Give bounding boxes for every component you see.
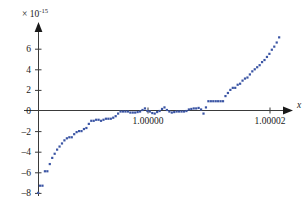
data-point [176,110,178,112]
data-point [224,95,226,97]
data-point [54,153,56,155]
data-point [61,142,63,144]
data-point [156,111,158,113]
data-point [132,111,134,113]
data-point [200,108,202,110]
data-point [195,107,197,109]
data-point [183,110,185,112]
data-point [78,130,80,132]
data-point [205,106,207,108]
data-point [188,108,190,110]
data-point [198,107,200,109]
y-axis-exponent-label: × 10-15 [22,7,49,19]
data-point [180,110,182,112]
data-point [100,120,102,122]
data-point [207,100,209,102]
data-point [166,109,168,111]
data-point [263,59,265,61]
data-point [151,112,153,114]
data-point [178,110,180,112]
data-point [229,89,231,91]
data-point [141,109,143,111]
data-point [271,49,273,51]
y-tick-label: –2 [21,127,32,137]
data-point [112,117,114,119]
x-tick-label: 1.00000 [133,116,164,126]
data-point [83,128,85,130]
y-tick-label: 0 [26,106,31,116]
data-point [217,100,219,102]
y-tick-label: –8 [21,188,32,198]
data-point [90,120,92,122]
data-point [146,110,148,112]
data-point [251,70,253,72]
data-point [232,87,234,89]
data-point [268,53,270,55]
data-point [63,139,65,141]
data-point [127,110,129,112]
data-point [278,36,280,38]
y-tick-label: –6 [21,168,32,178]
data-point [49,163,51,165]
data-point [227,92,229,94]
data-point [254,68,256,70]
data-point [144,107,146,109]
data-point [105,118,107,120]
data-point [80,130,82,132]
data-point [122,110,124,112]
data-point [256,66,258,68]
data-point [246,76,248,78]
data-point [76,131,78,133]
data-point [51,157,53,159]
data-point [266,56,268,58]
data-point [85,127,87,129]
data-point [95,119,97,121]
data-point [222,100,224,102]
data-point [202,112,204,114]
data-point [171,111,173,113]
data-point [37,192,39,194]
chart-figure: × 10-15 x 6420–2–4–6–8 1.000001.00002 [0,0,306,207]
data-point [58,145,60,147]
scatter-plot-svg: × 10-15 x 6420–2–4–6–8 1.000001.00002 [0,0,306,207]
data-point [107,118,109,120]
data-point [261,61,263,63]
data-point [237,84,239,86]
data-point [163,106,165,108]
data-point [210,100,212,102]
y-tick-label: 6 [26,44,31,54]
data-point [139,110,141,112]
data-point [154,112,156,114]
data-point [244,77,246,79]
data-point [249,73,251,75]
data-point [110,118,112,120]
data-point [117,112,119,114]
data-point [134,111,136,113]
data-point [276,41,278,43]
data-point [124,110,126,112]
data-point [73,133,75,135]
data-point [102,119,104,121]
data-point [46,170,48,172]
y-tick-label: 2 [26,85,31,95]
y-tick-label: –4 [21,147,32,157]
data-point [97,119,99,121]
data-point [158,110,160,112]
x-tick-label: 1.00002 [255,116,286,126]
data-point [190,108,192,110]
data-point [39,185,41,187]
data-point [71,136,73,138]
data-point [185,110,187,112]
y-tick-label: 4 [26,65,31,75]
data-point [234,87,236,89]
data-point [119,110,121,112]
data-point [68,136,70,138]
data-point [168,110,170,112]
data-point [239,83,241,85]
data-point [56,149,58,151]
data-point [161,108,163,110]
data-point [93,120,95,122]
data-point [219,100,221,102]
x-axis-label: x [296,100,302,110]
data-point [259,64,261,66]
